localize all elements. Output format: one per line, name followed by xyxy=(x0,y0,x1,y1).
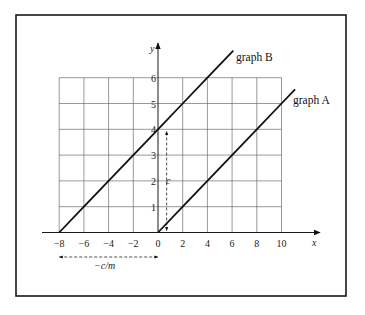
x-tick-label: 6 xyxy=(230,238,235,249)
x-axis-label: x xyxy=(311,237,317,248)
x-tick-label: 4 xyxy=(205,238,210,249)
grid xyxy=(59,78,281,233)
x-tick-label: −4 xyxy=(103,238,114,249)
x-tick-label: 10 xyxy=(277,238,287,249)
x-tick-label: 8 xyxy=(254,238,259,249)
y-tick-label: 3 xyxy=(151,150,156,161)
x-tick-label: −2 xyxy=(128,238,139,249)
y-tick-label: 2 xyxy=(151,176,156,187)
figure-frame xyxy=(16,15,346,296)
x-tick-label: −6 xyxy=(79,238,90,249)
y-tick-label: 6 xyxy=(151,73,156,84)
intercept-c-label: c xyxy=(166,175,171,186)
tick-labels: −8−6−4−20246810123456 xyxy=(54,73,287,249)
x-tick-label: 2 xyxy=(180,238,185,249)
graph-a-label: graph A xyxy=(293,94,330,107)
graph-a-line xyxy=(158,89,295,232)
y-axis-label: y xyxy=(149,43,155,54)
y-tick-label: 5 xyxy=(151,99,156,110)
x-tick-label: 0 xyxy=(156,238,161,249)
line-graph-figure: −8−6−4−20246810123456 y x graph B graph … xyxy=(0,0,365,315)
x-tick-label: −8 xyxy=(54,238,65,249)
y-tick-label: 1 xyxy=(151,202,156,213)
x-intercept-label: −c/m xyxy=(94,260,115,271)
graph-b-label: graph B xyxy=(236,51,273,64)
